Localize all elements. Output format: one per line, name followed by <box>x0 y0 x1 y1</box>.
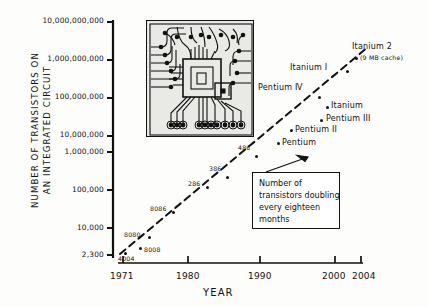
y-tick-label: 1,000,000 <box>8 148 104 155</box>
y-axis-title-line-1: NUMBER OF TRANSISTORS ON <box>29 27 41 233</box>
annotation-line-2: transistors doubling <box>259 190 340 202</box>
y-tick-label: 2,300 <box>8 251 104 258</box>
x-tick-label: 2004 <box>352 272 376 281</box>
point-label-286: 286 <box>188 181 200 187</box>
annotation-line-1: Number of <box>259 178 302 190</box>
point-label-itanium-i: Itanium Ⅰ <box>290 64 327 72</box>
y-axis-title-line-2: AN INTEGRATED CIRCUIT <box>41 27 53 233</box>
point-sublabel-itanium-2-cache: (9 MB cache) <box>360 55 403 61</box>
point-label-8080: 8080 <box>124 232 141 238</box>
y-axis-title: NUMBER OF TRANSISTORS ON AN INTEGRATED C… <box>29 27 53 233</box>
y-tick-label: 10,000 <box>8 224 104 231</box>
x-axis-ticks <box>123 256 361 263</box>
y-tick-label: 100,000 <box>8 186 104 193</box>
point-label-itanium-2: Itanium 2 <box>352 43 392 51</box>
y-tick-label: 1,000,000,000 <box>8 55 104 62</box>
x-tick-label: 1971 <box>110 272 134 281</box>
annotation-line-3: every eighteen <box>259 202 320 214</box>
point-label-pentium-iii: Pentium III <box>326 115 371 123</box>
point-label-pentium-ii: Pentium II <box>295 126 337 134</box>
point-label-8008: 8008 <box>144 247 161 253</box>
annotation-line-4: months <box>259 214 290 226</box>
y-tick-label: 10,000,000 <box>8 131 104 138</box>
x-tick-label: 1990 <box>248 272 272 281</box>
point-label-486: 486 <box>238 145 250 151</box>
x-tick-label: 1980 <box>176 272 200 281</box>
y-tick-label: 100,000,000 <box>8 93 104 100</box>
y-tick-label: 10,000,000,000 <box>8 17 104 24</box>
x-axis-title: YEAR <box>203 288 234 298</box>
point-label-pentium: Pentium <box>282 139 316 147</box>
point-label-itanium: Itanium <box>331 102 363 110</box>
point-label-pentium-iv: Pentium Ⅳ <box>258 84 302 92</box>
x-tick-label: 2000 <box>322 272 346 281</box>
chart-figure: 10,000,000,000 1,000,000,000 100,000,000… <box>0 0 428 307</box>
point-label-8086: 8086 <box>150 206 167 212</box>
point-label-386: 386 <box>209 166 221 172</box>
point-label-4004: 4004 <box>118 256 135 262</box>
